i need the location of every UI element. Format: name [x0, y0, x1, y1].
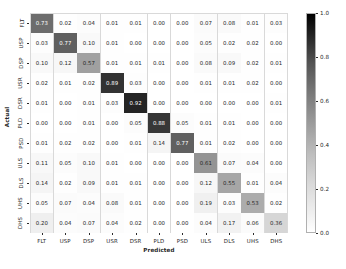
heatmap-cell: 0.01 — [77, 113, 100, 132]
heatmap-cell: 0.20 — [31, 213, 54, 232]
heatmap-cell: 0.11 — [31, 153, 54, 172]
heatmap-cell: 0.00 — [124, 153, 147, 172]
heatmap-cell: 0.05 — [124, 113, 147, 132]
heatmap-cell: 0.73 — [31, 14, 54, 33]
heatmap-cell: 0.00 — [265, 133, 288, 152]
heatmap-cell: 0.00 — [171, 173, 194, 192]
heatmap-cell: 0.03 — [265, 14, 288, 33]
heatmap-cell: 0.12 — [194, 173, 217, 192]
heatmap-cell-value: 0.01 — [223, 120, 235, 126]
heatmap-cell: 0.17 — [218, 213, 241, 232]
heatmap-cell: 0.00 — [124, 33, 147, 52]
x-tick-label: DLS — [218, 236, 241, 246]
heatmap-cell: 0.01 — [218, 113, 241, 132]
heatmap-cell: 0.01 — [218, 73, 241, 92]
heatmap-cell-value: 0.00 — [176, 80, 188, 86]
heatmap-cell-value: 0.04 — [106, 220, 118, 226]
heatmap-cell: 0.01 — [31, 133, 54, 152]
y-tick-label: DSR — [12, 93, 28, 113]
heatmap-cell-value: 0.88 — [153, 120, 165, 126]
heatmap-cell: 0.02 — [241, 53, 264, 72]
y-tick-label-text: UHS — [17, 197, 23, 209]
y-tick-label: ULS — [12, 153, 28, 173]
colorbar-tick: 0.6 — [316, 97, 329, 105]
heatmap-cell-value: 0.77 — [59, 40, 71, 46]
heatmap-cell-value: 0.17 — [223, 220, 235, 226]
x-tick-label: FLT — [30, 236, 53, 246]
heatmap-cell-value: 0.04 — [270, 180, 282, 186]
heatmap-cell-value: 0.00 — [176, 100, 188, 106]
heatmap-cell-value: 0.01 — [270, 100, 282, 106]
heatmap-cell-value: 0.01 — [129, 20, 141, 26]
heatmap-cell: 0.02 — [241, 73, 264, 92]
heatmap-cell-value: 0.02 — [223, 40, 235, 46]
heatmap-cell: 0.01 — [54, 73, 77, 92]
y-tick-label: PSD — [12, 133, 28, 153]
confusion-matrix-figure: Actual FLTUSPDSPUSRDSRPLDPSDULSDLSUHSDHS… — [0, 0, 346, 269]
heatmap-cell: 0.01 — [101, 153, 124, 172]
heatmap-cell-value: 0.04 — [200, 220, 212, 226]
heatmap-grid: 0.730.020.040.010.010.000.000.070.080.01… — [30, 13, 288, 233]
heatmap-cell-value: 0.00 — [176, 180, 188, 186]
heatmap-cell: 0.02 — [77, 73, 100, 92]
heatmap-cell-value: 0.01 — [59, 80, 71, 86]
heatmap-cell-value: 0.09 — [223, 60, 235, 66]
heatmap-cell-value: 0.01 — [129, 60, 141, 66]
heatmap-cell: 0.77 — [54, 33, 77, 52]
heatmap-cell-value: 0.08 — [106, 200, 118, 206]
heatmap-cell-value: 0.10 — [36, 60, 48, 66]
heatmap-cell: 0.00 — [171, 213, 194, 232]
y-tick-label: PLD — [12, 113, 28, 133]
heatmap-cell: 0.00 — [171, 73, 194, 92]
heatmap-cell-value: 0.61 — [200, 160, 212, 166]
y-axis-tick-labels: FLTUSPDSPUSRDSRPLDPSDULSDLSUHSDHS — [12, 13, 28, 233]
heatmap-cell-value: 0.11 — [36, 160, 48, 166]
heatmap-cell: 0.14 — [31, 173, 54, 192]
heatmap-cell-value: 0.00 — [270, 120, 282, 126]
heatmap-cell-value: 0.00 — [36, 120, 48, 126]
heatmap-cell-value: 0.00 — [153, 200, 165, 206]
heatmap-cell-value: 0.01 — [200, 140, 212, 146]
heatmap-cell: 0.01 — [265, 93, 288, 112]
heatmap-cell: 0.01 — [124, 14, 147, 33]
heatmap-cell: 0.05 — [171, 113, 194, 132]
heatmap-cell-value: 0.04 — [83, 200, 95, 206]
heatmap-cell: 0.04 — [265, 173, 288, 192]
heatmap-cell: 0.01 — [31, 93, 54, 112]
heatmap-cell-value: 0.01 — [106, 60, 118, 66]
heatmap-cell: 0.04 — [77, 193, 100, 212]
heatmap-cell-value: 0.02 — [270, 200, 282, 206]
heatmap-cell: 0.00 — [194, 93, 217, 112]
heatmap-cell: 0.05 — [31, 193, 54, 212]
heatmap-cell-value: 0.14 — [36, 180, 48, 186]
heatmap-cell-value: 0.01 — [36, 140, 48, 146]
heatmap-cell: 0.57 — [77, 53, 100, 72]
y-tick-label-text: DHS — [17, 217, 23, 229]
y-tick-label-text: USR — [17, 77, 23, 89]
heatmap-cell-value: 0.01 — [106, 40, 118, 46]
heatmap-cell-value: 0.00 — [176, 40, 188, 46]
heatmap-cell: 0.02 — [77, 133, 100, 152]
heatmap-cell: 0.01 — [148, 53, 171, 72]
heatmap-cell: 0.01 — [101, 14, 124, 33]
heatmap-cell-value: 0.04 — [83, 20, 95, 26]
heatmap-cell-value: 0.00 — [176, 20, 188, 26]
heatmap-cell-value: 0.04 — [59, 220, 71, 226]
y-tick-label: UHS — [12, 193, 28, 213]
colorbar-tick-text: 0.8 — [320, 54, 329, 60]
x-tick-label: DHS — [265, 236, 288, 246]
colorbar-tick-text: 0.0 — [320, 230, 329, 236]
colorbar-tick: 1.0 — [316, 9, 329, 17]
heatmap-cell-value: 0.02 — [59, 20, 71, 26]
heatmap-cell: 0.00 — [54, 113, 77, 132]
colorbar-tick-text: 0.2 — [320, 186, 329, 192]
heatmap-cell: 0.00 — [171, 153, 194, 172]
heatmap-cell-value: 0.02 — [247, 40, 259, 46]
x-axis-tick-labels: FLTUSPDSPUSRDSRPLDPSDULSDLSUHSDHS — [30, 236, 288, 246]
heatmap-cell: 0.08 — [101, 193, 124, 212]
heatmap-cell: 0.02 — [54, 133, 77, 152]
colorbar-tick-text: 1.0 — [320, 10, 329, 16]
x-tick-label: PSD — [171, 236, 194, 246]
heatmap-cell: 0.00 — [54, 93, 77, 112]
heatmap-cell: 0.10 — [77, 153, 100, 172]
